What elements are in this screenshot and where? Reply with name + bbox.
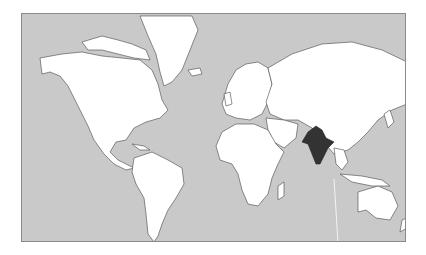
world-map	[21, 13, 406, 242]
world-map-svg	[22, 14, 406, 242]
